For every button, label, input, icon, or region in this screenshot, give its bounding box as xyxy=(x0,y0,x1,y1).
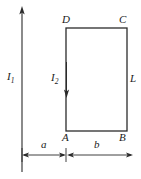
label-corner-d: D xyxy=(62,14,70,25)
dimension-line xyxy=(22,148,133,162)
label-corner-c: C xyxy=(119,14,126,25)
label-corner-b: B xyxy=(119,132,126,143)
label-corner-a: A xyxy=(62,132,69,143)
label-distance-b: b xyxy=(94,139,100,150)
diagram-canvas xyxy=(0,0,141,179)
physics-diagram: I1 I2 D C A B L a b xyxy=(0,0,141,179)
straight-wire-I1 xyxy=(19,6,24,172)
label-side-length-l: L xyxy=(130,73,136,84)
label-current-I1: I1 xyxy=(7,71,14,85)
rectangular-loop-abcd xyxy=(66,28,127,131)
loop-rectangle xyxy=(66,28,127,131)
loop-current-arrow-I2 xyxy=(64,62,69,98)
label-current-I2: I2 xyxy=(51,72,58,86)
label-distance-a: a xyxy=(41,139,47,150)
